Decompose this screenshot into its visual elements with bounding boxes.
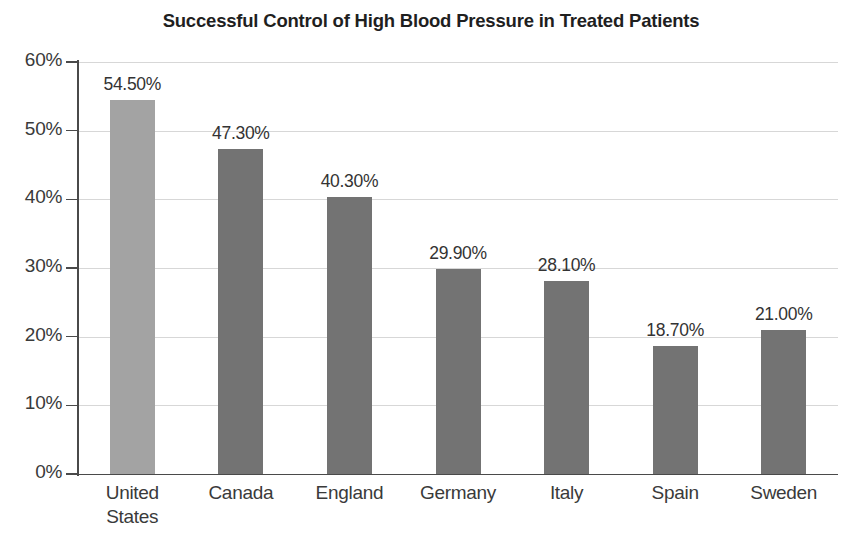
x-axis-label-line: Spain xyxy=(621,481,730,505)
x-axis-category-label: Canada xyxy=(187,481,296,505)
y-axis-tick-label: 20% xyxy=(0,324,62,346)
y-axis-tick xyxy=(66,405,78,407)
y-axis-tick-label: 40% xyxy=(0,186,62,208)
bar xyxy=(761,330,806,474)
bar xyxy=(653,346,698,474)
bar-value-label: 47.30% xyxy=(212,123,270,144)
bar-value-label: 18.70% xyxy=(646,320,704,341)
x-axis-category-label: Italy xyxy=(512,481,621,505)
x-axis-category-label: England xyxy=(295,481,404,505)
x-axis-category-label: UnitedStates xyxy=(78,481,187,529)
gridline xyxy=(78,199,838,200)
x-axis-label-line: Germany xyxy=(404,481,513,505)
y-axis-tick-label: 60% xyxy=(0,49,62,71)
y-axis-tick xyxy=(66,61,78,63)
bar xyxy=(327,197,372,474)
x-axis-label-line: United xyxy=(78,481,187,505)
y-axis-tick xyxy=(66,199,78,201)
x-axis-label-line: England xyxy=(295,481,404,505)
gridline xyxy=(78,62,838,63)
x-axis-label-line: Italy xyxy=(512,481,621,505)
bar-value-label: 40.30% xyxy=(321,171,379,192)
y-axis-tick xyxy=(66,130,78,132)
y-axis-tick-label: 50% xyxy=(0,118,62,140)
y-axis-tick-label: 0% xyxy=(0,461,62,483)
bar-value-label: 29.90% xyxy=(429,243,487,264)
y-axis-tick-label: 30% xyxy=(0,255,62,277)
bar xyxy=(544,281,589,474)
y-axis-tick xyxy=(66,336,78,338)
y-axis-tick xyxy=(66,267,78,269)
bar-value-label: 54.50% xyxy=(104,74,162,95)
footer-partial-text xyxy=(30,546,450,555)
bar-value-label: 21.00% xyxy=(755,304,813,325)
x-axis-label-line: States xyxy=(78,505,187,529)
bar xyxy=(110,100,155,474)
y-axis-tick-label: 10% xyxy=(0,392,62,414)
bar-chart-figure: Successful Control of High Blood Pressur… xyxy=(0,0,862,556)
x-axis-category-label: Spain xyxy=(621,481,730,505)
gridline xyxy=(78,131,838,132)
x-axis-category-label: Sweden xyxy=(729,481,838,505)
bar-value-label: 28.10% xyxy=(538,255,596,276)
chart-title: Successful Control of High Blood Pressur… xyxy=(0,10,862,32)
x-axis-category-label: Germany xyxy=(404,481,513,505)
x-axis-label-line: Canada xyxy=(187,481,296,505)
bar xyxy=(218,149,263,474)
bar xyxy=(436,269,481,474)
x-axis-label-line: Sweden xyxy=(729,481,838,505)
y-axis-tick xyxy=(66,473,78,475)
